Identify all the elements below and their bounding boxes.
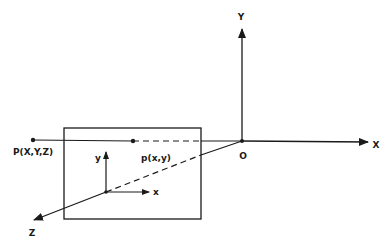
image-point-dot <box>131 139 135 143</box>
world-z-axis <box>34 192 106 220</box>
world-x-axis <box>242 141 368 142</box>
origin-dot <box>240 139 244 143</box>
projection-ray-solid <box>33 140 133 141</box>
world-z-label: Z <box>29 228 36 238</box>
optical-axis-solid <box>201 141 242 155</box>
origin-label: O <box>239 151 247 161</box>
world-point-label: P(X,Y,Z) <box>13 147 53 157</box>
image-x-label: x <box>153 187 159 197</box>
world-y-label: Y <box>237 12 245 22</box>
world-point-dot <box>31 138 35 142</box>
image-point-label: p(x,y) <box>141 153 171 163</box>
projection-diagram: Y X O Z P(X,Y,Z) p(x,y) y x <box>0 0 389 243</box>
image-y-label: y <box>95 153 101 163</box>
image-origin-dot <box>104 190 108 194</box>
world-x-label: X <box>373 140 380 150</box>
